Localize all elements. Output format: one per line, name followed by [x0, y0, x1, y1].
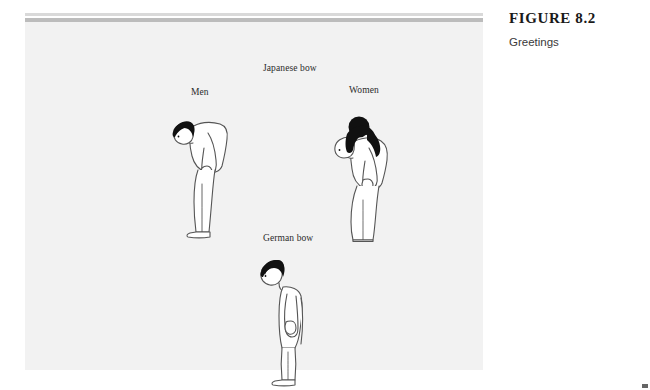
illustration-man-bowing	[168, 106, 242, 240]
figure-number: FIGURE 8.2	[509, 10, 641, 27]
label-women: Women	[349, 85, 379, 95]
figure-page: Japanese bow Men Women German bow	[0, 0, 650, 390]
label-japanese-bow: Japanese bow	[263, 63, 317, 73]
illustration-man-german-bow	[247, 248, 327, 388]
header-rule-light	[25, 13, 483, 16]
caption-block: FIGURE 8.2 Greetings	[509, 10, 641, 48]
corner-mark	[642, 384, 648, 388]
label-german-bow: German bow	[263, 233, 313, 243]
figure-panel: Japanese bow Men Women German bow	[25, 22, 483, 370]
illustration-woman-bowing	[323, 106, 403, 242]
figure-title: Greetings	[509, 36, 641, 48]
label-men: Men	[191, 87, 209, 97]
